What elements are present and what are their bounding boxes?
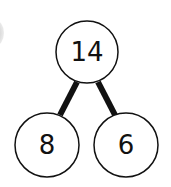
connector-right (98, 82, 115, 115)
part-value-right: 6 (96, 130, 156, 160)
connector-left (60, 82, 77, 115)
part-value-left: 8 (17, 130, 77, 160)
whole-value: 14 (57, 37, 117, 67)
